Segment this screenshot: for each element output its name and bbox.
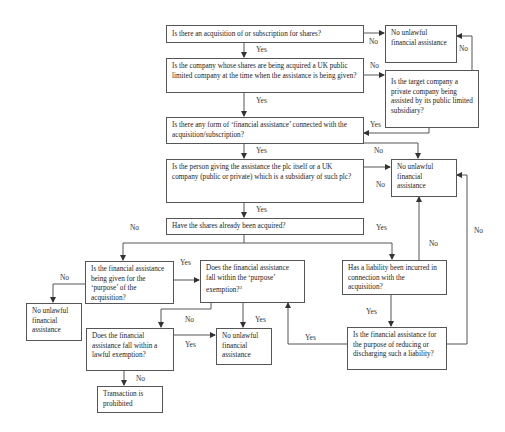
- question-uk-plc-box: Is the company whose shares are being ac…: [166, 58, 364, 93]
- question-text: Is there any form of ‘financial assistan…: [172, 121, 347, 139]
- edge-label-reducing-yes: Yes: [305, 333, 316, 342]
- result-text: Transaction is prohibited: [103, 390, 143, 408]
- result-no-unlawful-left-box: No unlawful financial assistance: [26, 303, 82, 341]
- edge-label-acq-no: No: [369, 37, 378, 46]
- question-private-target-box: Is the target company a private company …: [385, 70, 479, 128]
- edge-label-lawful-yes: Yes: [185, 340, 196, 349]
- question-purpose-exemption-box: Does the financial assistance fall withi…: [200, 260, 305, 303]
- question-text: Has a liability been incurred in connect…: [348, 264, 437, 291]
- question-shares-acquired-box: Have the shares already been acquired?: [166, 218, 364, 235]
- result-no-unlawful-mid-box: No unlawful financial assistance: [391, 159, 457, 197]
- edge-label-exemption-yes: Yes: [255, 315, 266, 324]
- edge-label-person-no: No: [376, 180, 385, 189]
- question-liability-box: Has a liability been incurred in connect…: [342, 260, 447, 295]
- edge-label-acq-yes: Yes: [256, 45, 267, 54]
- question-lawful-exemption-box: Does the financial assistance fall withi…: [86, 328, 174, 371]
- edge-label-private-yes: Yes: [370, 120, 381, 129]
- question-acquisition-text: Is there an acquisition of or subscripti…: [172, 30, 321, 38]
- edge-label-private-no: No: [459, 44, 468, 53]
- edge-label-reducing-no: No: [474, 226, 483, 235]
- edge-label-liability-yes: Yes: [366, 307, 377, 316]
- edge-label-purpose-yes: Yes: [180, 258, 191, 267]
- question-purpose-box: Is the financial assistance being given …: [85, 261, 174, 304]
- result-no-unlawful-bottom-box: No unlawful financial assistance: [216, 328, 272, 365]
- question-text: Is the company whose shares are being ac…: [172, 62, 356, 80]
- result-text: No unlawful financial assistance: [222, 332, 258, 359]
- result-text: No unlawful financial assistance: [391, 29, 447, 47]
- footnote-marker: 3: [240, 285, 243, 290]
- result-text: No unlawful financial assistance: [397, 163, 433, 190]
- edge-label-fa-no: No: [374, 146, 383, 155]
- edge-label-person-yes: Yes: [256, 205, 267, 214]
- edge-label-shares-no: No: [130, 223, 139, 232]
- question-text: Have the shares already been acquired?: [172, 222, 286, 230]
- edge-label-plc-yes: Yes: [256, 96, 267, 105]
- question-text: Is the target company a private company …: [391, 78, 473, 115]
- edge-label-lawful-no: No: [136, 374, 145, 383]
- question-person-giving-box: Is the person giving the assistance the …: [166, 159, 364, 203]
- result-text: No unlawful financial assistance: [32, 307, 68, 334]
- result-no-unlawful-top-box: No unlawful financial assistance: [385, 25, 457, 63]
- edge-label-plc-no: No: [370, 61, 379, 70]
- question-text: Does the financial assistance fall withi…: [206, 264, 289, 295]
- question-text: Is the person giving the assistance the …: [172, 163, 351, 181]
- edge-label-purpose-no: No: [60, 273, 69, 282]
- question-reducing-box: Is the financial assistance for the purp…: [347, 327, 447, 370]
- question-text: Does the financial assistance fall withi…: [92, 332, 157, 359]
- question-text: Is the financial assistance being given …: [91, 265, 164, 302]
- result-prohibited-box: Transaction is prohibited: [97, 386, 163, 413]
- question-financial-assistance-box: Is there any form of ‘financial assistan…: [166, 117, 364, 144]
- edge-label-shares-yes: Yes: [376, 223, 387, 232]
- edge-label-fa-yes: Yes: [256, 146, 267, 155]
- edge-label-liability-no: No: [429, 239, 438, 248]
- question-text: Is the financial assistance for the purp…: [353, 331, 436, 358]
- question-acquisition-box: Is there an acquisition of or subscripti…: [166, 25, 364, 43]
- edge-label-exemption-no: No: [185, 315, 194, 324]
